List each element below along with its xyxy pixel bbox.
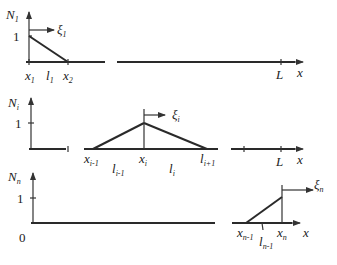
panel-ni: Ni 1 ξi xi-1 li-1 xi li li+1 L x — [7, 95, 303, 178]
shape-function-rise — [246, 197, 282, 223]
label-l-n-1: ln-1 — [259, 234, 273, 251]
xi-label: ξ1 — [57, 22, 67, 39]
label-l-i-1: li-1 — [112, 161, 125, 178]
label-l-i+1: li+1 — [200, 151, 215, 168]
one-label: 1 — [13, 29, 20, 44]
label-x2: x2 — [62, 68, 73, 85]
diagram-svg: N1 1 ξ1 x1 l1 x2 L x Ni 1 ξi xi-1 li-1 x… — [0, 0, 337, 265]
one-label: 1 — [17, 191, 24, 206]
xi-label: ξn — [314, 177, 324, 194]
shape-function-diagram: N1 1 ξ1 x1 l1 x2 L x Ni 1 ξi xi-1 li-1 x… — [0, 0, 337, 265]
xi-label: ξi — [172, 107, 180, 124]
label-l-i: li — [169, 161, 175, 178]
label-x-axis: x — [302, 225, 309, 240]
label-x-i-1: xi-1 — [83, 151, 99, 168]
ylabel-nn: Nn — [7, 169, 21, 186]
label-x-axis: x — [296, 65, 303, 80]
panel-nn: Nn 1 0 ξn xn-1 ln-1 xn x — [7, 169, 324, 251]
label-x-n-1: xn-1 — [236, 225, 253, 242]
panel-n1: N1 1 ξ1 x1 l1 x2 L x — [5, 7, 303, 85]
label-x-axis: x — [296, 152, 303, 167]
label-x-n: xn — [276, 225, 287, 242]
zero-label: 0 — [19, 230, 26, 245]
one-label: 1 — [15, 116, 22, 131]
shape-function-line — [29, 36, 68, 62]
ylabel-ni: Ni — [7, 95, 19, 112]
label-L: L — [275, 67, 283, 82]
shape-function-rise — [93, 123, 144, 149]
label-L: L — [275, 154, 283, 169]
label-x-i: xi — [138, 151, 147, 168]
ylabel-n1: N1 — [5, 7, 19, 24]
label-x1: x1 — [24, 68, 35, 85]
l-leader — [262, 223, 263, 230]
shape-function-fall — [144, 123, 207, 149]
label-l1: l1 — [46, 68, 54, 85]
